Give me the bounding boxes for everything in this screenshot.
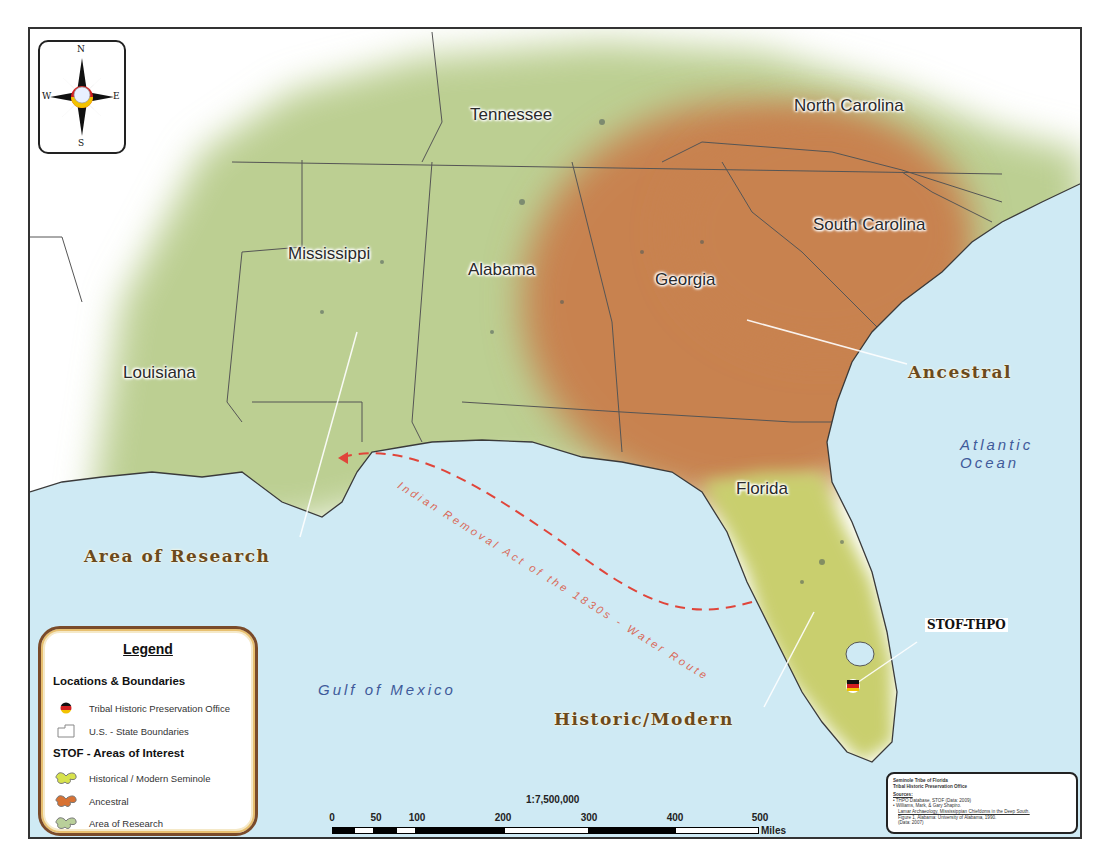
water-label-gulf: Gulf of Mexico — [318, 681, 456, 699]
water-label-atlantic: Atlantic — [960, 436, 1033, 454]
compass-west-label: W — [42, 91, 51, 101]
scale-ratio: 1:7,500,000 — [526, 794, 579, 805]
state-label-mississippi: Mississippi — [288, 244, 370, 264]
state-label-florida: Florida — [736, 479, 788, 499]
legend-item-label: Area of Research — [89, 818, 163, 829]
area-label-research: Area of Research — [84, 546, 270, 566]
legend-item-research: Area of Research — [55, 816, 163, 830]
legend-item-historic: Historical / Modern Seminole — [55, 771, 210, 785]
scale-tick-500: 500 — [752, 812, 769, 823]
scale-tick-400: 400 — [667, 812, 684, 823]
compass-east-label: E — [113, 91, 120, 101]
legend-item-label: Tribal Historic Preservation Office — [89, 703, 230, 714]
scale-tick-0: 0 — [329, 812, 335, 823]
water-label-ocean: Ocean — [960, 454, 1019, 472]
area-label-historic: Historic/Modern — [554, 709, 734, 729]
office-label: STOF-THPO — [925, 618, 1008, 632]
historic-area-swatch-icon — [55, 771, 77, 785]
compass-star-icon — [40, 42, 124, 152]
legend-item-label: Historical / Modern Seminole — [89, 773, 210, 784]
ancestral-area-swatch-icon — [55, 794, 77, 808]
legend-section-locations: Locations & Boundaries — [53, 675, 185, 687]
state-label-louisiana: Louisiana — [123, 363, 196, 383]
thpo-marker[interactable] — [846, 679, 860, 693]
legend-box: Legend Locations & Boundaries Tribal His… — [38, 626, 258, 836]
sources-line5: (Data: 2007) — [893, 820, 1071, 826]
state-label-south-carolina: South Carolina — [813, 215, 925, 235]
legend-item-thpo: Tribal Historic Preservation Office — [55, 701, 230, 715]
map-frame: N S W E Tennessee North Carolina South C… — [28, 27, 1082, 839]
compass-north-label: N — [77, 44, 85, 54]
legend-item-label: Ancestral — [89, 796, 129, 807]
state-label-georgia: Georgia — [655, 270, 715, 290]
sources-box: Seminole Tribe of Florida Tribal Histori… — [886, 772, 1078, 834]
research-area-swatch-icon — [55, 816, 77, 830]
scale-tick-50: 50 — [370, 812, 381, 823]
legend-item-label: U.S. - State Boundaries — [89, 726, 189, 737]
state-label-tennessee: Tennessee — [470, 105, 552, 125]
legend-item-state-boundaries: U.S. - State Boundaries — [55, 724, 189, 738]
thpo-marker-icon — [55, 701, 77, 715]
state-label-north-carolina: North Carolina — [794, 96, 904, 116]
sources-org2: Tribal Historic Preservation Office — [893, 784, 1071, 790]
legend-section-areas: STOF - Areas of Interest — [53, 747, 184, 759]
compass-rose: N S W E — [38, 40, 126, 154]
scale-tick-300: 300 — [581, 812, 598, 823]
state-label-alabama: Alabama — [468, 260, 535, 280]
compass-south-label: S — [78, 138, 84, 148]
scale-units: Miles — [761, 825, 786, 836]
scale-tick-100: 100 — [409, 812, 426, 823]
area-label-ancestral: Ancestral — [908, 362, 1012, 382]
legend-title: Legend — [41, 641, 255, 657]
legend-item-ancestral: Ancestral — [55, 794, 129, 808]
scale-tick-200: 200 — [495, 812, 512, 823]
state-boundary-icon — [55, 724, 77, 738]
